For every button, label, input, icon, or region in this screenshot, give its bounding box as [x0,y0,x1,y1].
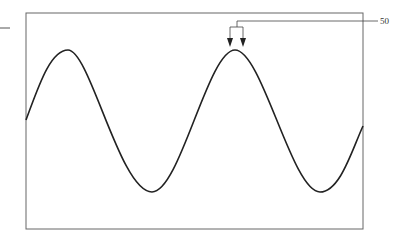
sine-wave [26,50,363,192]
waveform-figure: 50 [0,0,396,243]
reference-leader [227,21,378,47]
arrow-left-icon [227,38,233,47]
reference-number-label: 50 [380,16,390,26]
arrow-right-icon [240,38,246,47]
